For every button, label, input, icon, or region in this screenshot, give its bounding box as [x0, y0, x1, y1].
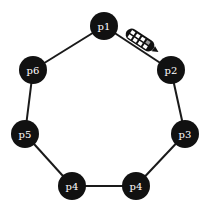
node-p1: p1	[90, 12, 118, 40]
edges	[25, 26, 185, 186]
ring-diagram: p1 p2 p3 p4 p4 p5 p6	[0, 0, 207, 215]
node-label: p2	[165, 65, 178, 76]
node-label: p5	[19, 129, 32, 140]
node-p4-right: p4	[122, 172, 150, 200]
nodes: p1 p2 p3 p4 p4 p5 p6	[11, 12, 199, 200]
node-p6: p6	[19, 56, 47, 84]
node-p5: p5	[11, 120, 39, 148]
node-label: p4	[66, 181, 79, 192]
node-p4-left: p4	[58, 172, 86, 200]
node-p2: p2	[157, 56, 185, 84]
node-p3: p3	[171, 120, 199, 148]
node-label: p4	[130, 181, 143, 192]
node-label: p3	[179, 129, 192, 140]
node-label: p6	[27, 65, 40, 76]
node-label: p1	[98, 21, 111, 32]
